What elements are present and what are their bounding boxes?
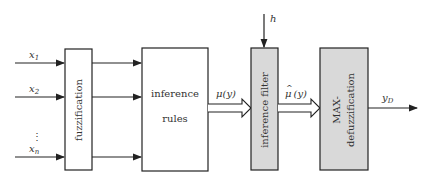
mu-hat-accent: ^	[286, 83, 293, 92]
fuzzification-label: fuzzification	[73, 79, 84, 141]
inference-rules-label-2: rules	[162, 113, 187, 124]
inference-rules-label-1: inference	[151, 88, 199, 99]
fuzzy-controller-diagram: x1 x2 ⋮ xn fuzzification inference rules…	[0, 0, 432, 179]
max-label-2: defuzzification	[345, 72, 356, 147]
input-label-1: x1	[29, 49, 39, 62]
input-label-2: x2	[29, 83, 40, 96]
inference-filter-label: inference filter	[259, 72, 270, 148]
input-arrows	[15, 63, 64, 157]
mu-hat-double-arrow	[278, 99, 320, 117]
output-label: yD	[381, 92, 394, 105]
mu-double-arrow	[208, 99, 251, 117]
mu-label: μ(y)	[216, 88, 236, 99]
input-ellipsis: ⋮	[32, 131, 42, 142]
input-label-n: xn	[29, 143, 40, 156]
h-label: h	[270, 13, 276, 24]
inference-rules-block	[142, 48, 208, 171]
max-label-1: MAX-	[331, 96, 342, 124]
max-defuzzification-block	[320, 48, 368, 170]
